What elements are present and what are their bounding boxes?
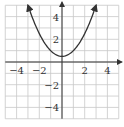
x-tick-label: 4 [104, 65, 110, 76]
y-tick-label: −2 [44, 80, 59, 91]
x-tick-label: 2 [82, 65, 88, 76]
axes [5, 2, 122, 119]
x-tick-label: −4 [9, 65, 24, 76]
x-tick-label: −2 [32, 65, 47, 76]
y-tick-label: 2 [53, 34, 59, 45]
y-tick-label: −4 [44, 102, 59, 113]
coordinate-plane: −4−22442−2−4 [0, 0, 124, 127]
y-tick-label: 4 [53, 12, 59, 23]
